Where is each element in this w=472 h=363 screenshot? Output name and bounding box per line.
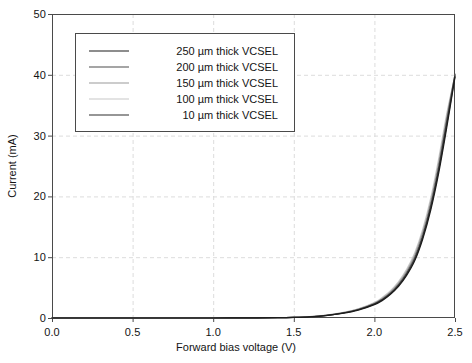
y-tick-label: 0 [22,312,46,324]
x-tick-label: 1.5 [286,326,302,338]
y-tick-label: 30 [22,130,46,142]
y-tick-label: 10 [22,251,46,263]
legend-line-swatch [89,110,129,121]
y-tick-label: 50 [22,8,46,20]
y-tick-label: 40 [22,69,46,81]
chart-legend: 250 µm thick VCSEL200 µm thick VCSEL150 … [75,33,295,132]
x-axis-title: Forward bias voltage (V) [0,341,472,353]
x-tick-label: 1.0 [205,326,221,338]
legend-line-swatch [89,94,129,105]
legend-item-label: 200 µm thick VCSEL [129,61,284,73]
y-tick-label: 20 [22,190,46,202]
legend-item: 250 µm thick VCSEL [76,43,294,59]
x-tick-label: 0.5 [125,326,141,338]
figure-canvas: 01020304050 0.00.51.01.52.02.5 Current (… [0,0,472,363]
legend-item: 100 µm thick VCSEL [76,91,294,107]
x-tick-label: 0.0 [44,326,60,338]
x-tick-label: 2.5 [447,326,463,338]
legend-item: 150 µm thick VCSEL [76,75,294,91]
x-tick-label: 2.0 [367,326,383,338]
legend-line-swatch [89,78,129,89]
legend-line-swatch [89,46,129,57]
y-axis-title: Current (mA) [6,134,18,198]
legend-item-label: 10 µm thick VCSEL [129,109,284,121]
legend-item-label: 100 µm thick VCSEL [129,93,284,105]
legend-item-label: 250 µm thick VCSEL [129,45,284,57]
legend-item: 10 µm thick VCSEL [76,107,294,123]
legend-item: 200 µm thick VCSEL [76,59,294,75]
legend-item-label: 150 µm thick VCSEL [129,77,284,89]
y-axis-title-wrapper: Current (mA) [2,0,22,332]
legend-line-swatch [89,62,129,73]
